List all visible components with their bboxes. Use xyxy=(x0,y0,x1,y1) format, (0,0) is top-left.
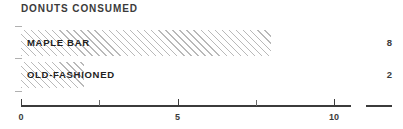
x-axis-line xyxy=(21,105,351,107)
x-axis-tick-label: 0 xyxy=(18,112,23,122)
x-axis-tick xyxy=(99,100,100,106)
plot-area: MAPLE BAR 8 OLD-FASHIONED 2 0510 xyxy=(0,0,403,129)
category-tick xyxy=(15,26,22,27)
x-axis-tick-label: 10 xyxy=(329,112,339,122)
bar-chart: DONUTS CONSUMED MAPLE BAR 8 OLD-FASHIONE… xyxy=(0,0,403,129)
bar-label: OLD-FASHIONED xyxy=(27,62,115,88)
bar-value: 2 xyxy=(387,62,392,88)
x-axis-value-column-rule xyxy=(366,105,392,107)
x-axis-tick xyxy=(21,99,22,106)
category-tick xyxy=(15,58,22,59)
x-axis-tick-label: 5 xyxy=(175,112,180,122)
bar-value: 8 xyxy=(387,30,392,56)
x-axis-tick xyxy=(178,99,179,106)
bar-label: MAPLE BAR xyxy=(27,30,90,56)
category-tick xyxy=(15,91,22,92)
x-axis-tick xyxy=(256,100,257,106)
x-axis-tick xyxy=(334,99,335,106)
